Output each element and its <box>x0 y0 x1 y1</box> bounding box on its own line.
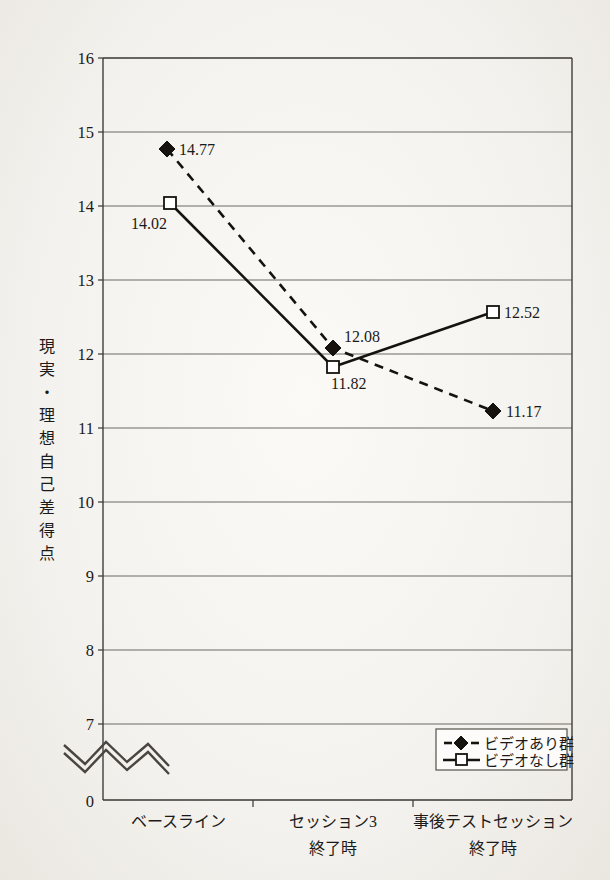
y-axis-title: 現 実 ・ 理 想 自 己 差 得 点 <box>39 338 55 562</box>
legend-square-icon <box>456 754 467 765</box>
y-tick-label: 14 <box>78 197 95 216</box>
y-axis-title-char: 理 <box>39 407 55 424</box>
y-tick-label: 13 <box>78 271 95 290</box>
series-no-video-marker <box>327 361 339 373</box>
y-axis-title-char: 得 <box>39 522 55 539</box>
legend-label-no-video: ビデオなし群 <box>484 752 574 769</box>
point-label-with-video-3: 11.17 <box>506 403 541 420</box>
y-axis-title-char: 差 <box>39 499 55 516</box>
legend[interactable]: ビデオあり群 ビデオなし群 <box>436 729 574 770</box>
point-label-no-video-2: 11.82 <box>331 375 366 392</box>
series-no-video-marker <box>164 197 176 209</box>
axis-break-zigzag-upper <box>64 742 169 766</box>
line-chart-figure: 16 15 14 13 12 11 10 9 8 7 0 <box>0 0 610 880</box>
series-with-video-marker <box>485 403 501 419</box>
x-tick-label-session3-line1: セッション3 <box>289 813 377 830</box>
y-axis-title-char: 点 <box>39 545 55 562</box>
y-axis-title-char: 自 <box>39 453 55 470</box>
y-tick-label: 10 <box>78 493 95 512</box>
point-label-with-video-1: 14.77 <box>179 141 215 158</box>
legend-label-with-video: ビデオあり群 <box>484 735 574 752</box>
y-axis-title-char: ・ <box>39 384 55 401</box>
y-axis-tick-marks <box>98 58 103 724</box>
chart-canvas: 16 15 14 13 12 11 10 9 8 7 0 <box>0 0 610 880</box>
y-tick-label: 16 <box>78 49 95 68</box>
point-label-no-video-1: 14.02 <box>131 215 167 232</box>
series-no-video-marker <box>487 306 499 318</box>
y-origin-label: 0 <box>86 792 94 811</box>
y-tick-label: 8 <box>86 641 94 660</box>
y-tick-label: 11 <box>78 419 94 438</box>
y-tick-label: 7 <box>86 715 94 734</box>
x-axis-tick-marks <box>253 800 413 807</box>
x-tick-label-session3-line2: 終了時 <box>309 840 357 857</box>
y-axis-tick-labels: 16 15 14 13 12 11 10 9 8 7 0 <box>78 49 95 811</box>
x-axis-tick-labels: ベースライン セッション3 終了時 事後テストセッション 終了時 <box>131 813 574 857</box>
y-tick-label: 12 <box>78 345 95 364</box>
axis-break-symbol <box>64 742 169 774</box>
point-label-with-video-2: 12.08 <box>344 328 380 345</box>
x-tick-label-baseline: ベースライン <box>131 813 226 830</box>
x-tick-label-posttest-line1: 事後テストセッション <box>413 813 573 830</box>
y-axis-title-char: 己 <box>39 476 55 493</box>
point-label-no-video-3: 12.52 <box>504 304 540 321</box>
y-axis-title-char: 現 <box>39 338 55 355</box>
y-tick-label: 9 <box>86 567 94 586</box>
x-tick-label-posttest-line2: 終了時 <box>469 840 517 857</box>
y-axis-title-char: 実 <box>39 361 55 378</box>
plot-frame <box>103 58 572 800</box>
y-axis-title-char: 想 <box>39 430 55 447</box>
y-tick-label: 15 <box>78 123 95 142</box>
